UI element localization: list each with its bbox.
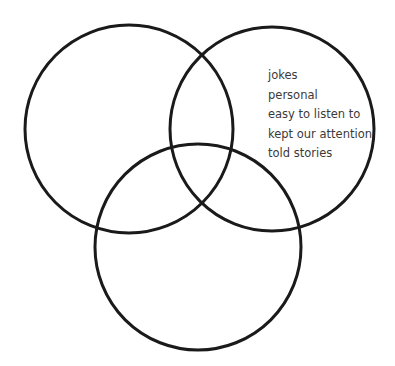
label-kept-our-attention: kept our attention [268,125,372,145]
right-circle-labels: jokes personal easy to listen to kept ou… [268,66,372,164]
label-easy-to-listen-to: easy to listen to [268,105,372,125]
label-told-stories: told stories [268,144,372,164]
venn-diagram [0,0,395,366]
label-jokes: jokes [268,66,372,86]
label-personal: personal [268,86,372,106]
circle-bottom [95,144,301,350]
